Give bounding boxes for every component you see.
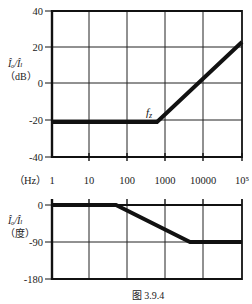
magnitude-frame xyxy=(52,10,242,158)
phase-panel: 0 -90 -180 Îₒ/Îₗ （度） xyxy=(5,199,242,285)
ytick-neg20: -20 xyxy=(29,115,43,126)
figure-caption: 图 3.9.4 xyxy=(132,290,165,301)
xtick-100000: 10⁵ xyxy=(235,175,250,186)
phase-curve xyxy=(52,205,242,242)
xtick-100: 100 xyxy=(119,175,135,186)
xtick-10000: 10000 xyxy=(190,175,216,186)
bode-plot-figure: 40 20 0 -20 -40 Îₒ/Îₗ （dB） fz （Hz） 1 10 … xyxy=(0,0,252,304)
phase-frame xyxy=(52,199,242,280)
frequency-axis: （Hz） 1 10 100 1000 10000 10⁵ xyxy=(14,175,249,186)
phase-ylabel-ratio: Îₒ/Îₗ xyxy=(7,215,23,226)
magnitude-ylabel-unit: （dB） xyxy=(5,71,37,82)
xtick-10: 10 xyxy=(84,175,95,186)
fz-annotation: fz xyxy=(146,106,153,120)
ytick-neg40: -40 xyxy=(29,152,43,163)
magnitude-grid xyxy=(52,11,242,157)
ytick-40: 40 xyxy=(33,6,44,17)
xtick-1: 1 xyxy=(49,175,54,186)
phase-ytick-neg180: -180 xyxy=(24,274,43,285)
fz-subscript: z xyxy=(148,111,153,120)
x-unit-label: （Hz） xyxy=(14,175,46,186)
magnitude-ylabel-ratio: Îₒ/Îₗ xyxy=(7,58,23,69)
xtick-1000: 1000 xyxy=(155,175,176,186)
magnitude-panel: 40 20 0 -20 -40 Îₒ/Îₗ （dB） fz xyxy=(5,6,242,163)
ytick-20: 20 xyxy=(33,42,44,53)
phase-ylabel-unit: （度） xyxy=(5,227,35,239)
ytick-0: 0 xyxy=(38,78,43,89)
phase-ytick-0: 0 xyxy=(38,200,43,211)
